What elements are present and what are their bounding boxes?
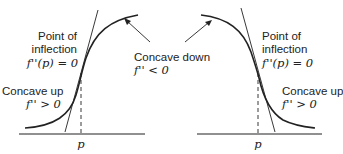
left-concave-up-condition: f'' > 0	[25, 97, 61, 111]
right-inflection-condition: f''(p) = 0	[261, 56, 313, 70]
left-tangent-line	[65, 10, 98, 132]
right-concave-up-label: Concave up	[282, 85, 343, 97]
concave-down-condition: f'' < 0	[133, 63, 169, 77]
concave-down-label: Concave down	[134, 51, 210, 63]
left-inflection-label-2: inflection	[32, 43, 77, 55]
right-inflection-label-1: Point of	[262, 30, 302, 42]
right-panel: Point of inflection f''(p) = 0 Concave u…	[185, 8, 343, 151]
right-tangent-line	[241, 8, 275, 132]
left-concave-down-arrow	[127, 21, 150, 42]
left-panel: Point of inflection f''(p) = 0 Concave u…	[2, 10, 210, 151]
left-p-tick-label: p	[77, 137, 85, 151]
right-inflection-label-2: inflection	[262, 43, 307, 55]
concavity-diagram: Point of inflection f''(p) = 0 Concave u…	[0, 0, 343, 154]
left-concave-up-label: Concave up	[2, 85, 63, 97]
left-inflection-condition: f''(p) = 0	[26, 56, 78, 70]
right-concave-up-condition: f'' > 0	[281, 97, 317, 111]
left-inflection-label-1: Point of	[38, 30, 78, 42]
right-concave-down-arrow	[185, 23, 208, 42]
right-p-tick-label: p	[254, 137, 262, 151]
